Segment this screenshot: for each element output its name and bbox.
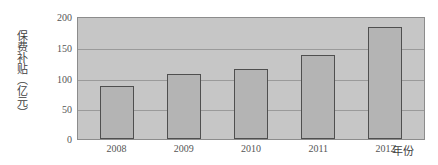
bar-slot-2012 bbox=[351, 18, 418, 139]
x-axis-tick-label: 2008 bbox=[83, 143, 150, 157]
bars-layer bbox=[78, 18, 424, 139]
bar-2008 bbox=[100, 86, 134, 139]
x-axis-tick-label: 2009 bbox=[150, 143, 217, 157]
bar-slot-2008 bbox=[84, 18, 151, 139]
x-axis-tick-label: 2011 bbox=[285, 143, 352, 157]
plot-area bbox=[77, 17, 425, 140]
bar-2012 bbox=[368, 27, 402, 139]
y-axis-tick-label: 200 bbox=[44, 13, 72, 23]
y-axis-tick-label: 0 bbox=[44, 135, 72, 145]
x-axis-title: 年份 bbox=[392, 145, 414, 157]
y-axis-tick-label-group: 200 150 100 50 0 bbox=[44, 17, 72, 140]
y-axis-title: 保费补贴（亿元） bbox=[6, 8, 28, 140]
x-axis-tick-label-group: 2008 2009 2010 2011 2012 bbox=[77, 143, 425, 157]
y-axis-tick-label: 150 bbox=[44, 44, 72, 54]
y-axis-tick-label: 100 bbox=[44, 75, 72, 85]
bar-slot-2011 bbox=[284, 18, 351, 139]
x-axis-tick-label: 2010 bbox=[217, 143, 284, 157]
bar-2011 bbox=[301, 55, 335, 139]
bar-slot-2010 bbox=[218, 18, 285, 139]
y-axis-tick-label: 50 bbox=[44, 105, 72, 115]
bar-2010 bbox=[234, 69, 268, 139]
bar-chart-figure: 保费补贴（亿元） 200 150 100 50 0 bbox=[0, 0, 438, 165]
bar-2009 bbox=[167, 74, 201, 139]
bar-slot-2009 bbox=[151, 18, 218, 139]
